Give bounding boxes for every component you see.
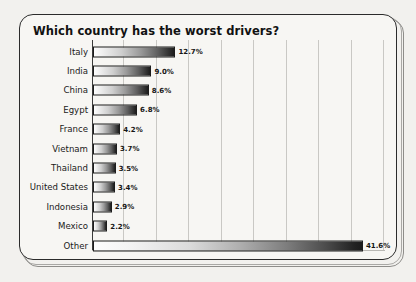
bar-group: 41.6%: [93, 240, 390, 251]
bar-group: 3.4%: [93, 182, 137, 193]
bar-group: 4.2%: [93, 124, 143, 135]
bar-value-label: 3.4%: [118, 183, 137, 191]
bar-group: 9.0%: [93, 66, 174, 77]
bar-value-label: 3.7%: [120, 145, 139, 153]
bar-row: India9.0%: [29, 61, 387, 80]
bar-row: France4.2%: [29, 120, 387, 139]
category-label: Indonesia: [29, 202, 88, 212]
bar-row: Egypt6.8%: [29, 100, 387, 119]
bar-row: Indonesia2.9%: [29, 197, 387, 216]
bar-row: Vietnam3.7%: [29, 139, 387, 158]
bar: [93, 46, 175, 57]
chart-title: Which country has the worst drivers?: [33, 24, 279, 38]
bar-group: 3.7%: [93, 143, 139, 154]
chart-card: Which country has the worst drivers? Ita…: [0, 0, 416, 282]
bar: [93, 124, 120, 135]
bar-rows: Italy12.7%India9.0%China8.6%Egypt6.8%Fra…: [29, 40, 387, 254]
bar-value-label: 4.2%: [123, 125, 142, 133]
bar-value-label: 2.9%: [115, 203, 134, 211]
bar-group: 12.7%: [93, 46, 203, 57]
plot-area: Italy12.7%India9.0%China8.6%Egypt6.8%Fra…: [29, 40, 387, 254]
bar: [93, 104, 137, 115]
category-label: Egypt: [29, 105, 88, 115]
bar-value-label: 8.6%: [152, 86, 171, 94]
bar-row: Other41.6%: [29, 236, 387, 255]
bar-group: 2.2%: [93, 221, 130, 232]
bar: [93, 221, 107, 232]
bar: [93, 182, 115, 193]
category-label: Italy: [29, 47, 88, 57]
category-label: Thailand: [29, 163, 88, 173]
bar-row: Italy12.7%: [29, 42, 387, 61]
bar-row: Mexico2.2%: [29, 217, 387, 236]
bar-value-label: 2.2%: [110, 222, 129, 230]
bar: [93, 66, 151, 77]
bar-value-label: 41.6%: [366, 242, 390, 250]
bar-group: 6.8%: [93, 104, 160, 115]
bar: [93, 201, 112, 212]
bar-row: United States3.4%: [29, 178, 387, 197]
bar-value-label: 9.0%: [154, 67, 173, 75]
bar: [93, 143, 117, 154]
category-label: India: [29, 66, 88, 76]
bar: [93, 240, 363, 251]
bar-row: Thailand3.5%: [29, 158, 387, 177]
bar-group: 2.9%: [93, 201, 134, 212]
category-label: China: [29, 85, 88, 95]
bar: [93, 85, 149, 96]
bar: [93, 163, 116, 174]
category-label: United States: [29, 182, 88, 192]
category-label: Mexico: [29, 221, 88, 231]
category-label: France: [29, 124, 88, 134]
category-label: Other: [29, 241, 88, 251]
bar-value-label: 12.7%: [178, 48, 202, 56]
bar-value-label: 3.5%: [119, 164, 138, 172]
bar-row: China8.6%: [29, 81, 387, 100]
bar-group: 8.6%: [93, 85, 171, 96]
category-label: Vietnam: [29, 144, 88, 154]
bar-group: 3.5%: [93, 163, 138, 174]
bar-value-label: 6.8%: [140, 106, 159, 114]
